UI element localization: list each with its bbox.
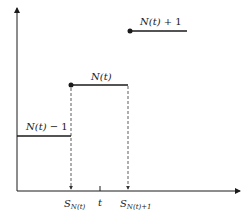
label-level-upper: N(t) + 1 (139, 16, 182, 27)
step-function-diagram: N(t) − 1 N(t) N(t) + 1 SN(t) t SN(t)+1 (0, 0, 251, 217)
label-level-lower: N(t) − 1 (25, 121, 68, 132)
label-t: t (98, 197, 103, 208)
step-dot-upper (128, 29, 133, 34)
label-level-middle: N(t) (90, 71, 112, 82)
label-s-nt1: SN(t)+1 (120, 198, 152, 211)
label-s-nt: SN(t) (64, 198, 86, 211)
step-dot-middle (69, 83, 74, 88)
